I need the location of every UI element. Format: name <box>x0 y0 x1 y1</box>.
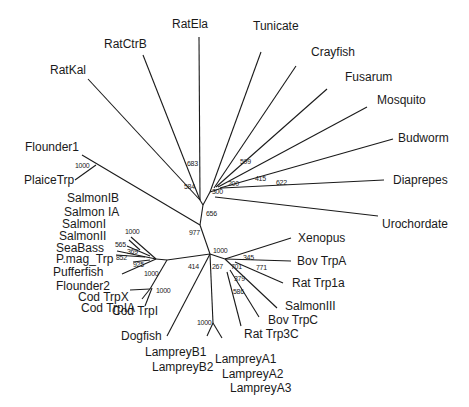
leaf-rattrp1a: Rat Trp1a <box>292 277 345 289</box>
bootstrap-1000-lamprey: 1000 <box>197 319 211 326</box>
leaf-flounder1: Flounder1 <box>25 141 79 153</box>
branch-trp-stem <box>210 254 225 259</box>
branch-diaprepes <box>222 180 384 188</box>
bootstrap-656: 656 <box>206 210 217 217</box>
branch-ratnode <box>200 200 203 205</box>
leaf-diaprepes: Diaprepes <box>393 174 448 186</box>
leaf-bovtrpa: Bov TrpA <box>297 255 346 267</box>
bootstrap-701: 701 <box>231 263 242 270</box>
branch-xenopus <box>225 238 291 259</box>
leaf-budworm: Budworm <box>398 132 449 144</box>
bootstrap-200: 200 <box>228 180 239 187</box>
leaf-urochordate: Urochordate <box>382 218 448 230</box>
leaf-fusarum: Fusarum <box>345 71 392 83</box>
leaf-pufferfish: Pufferfish <box>53 266 103 278</box>
bootstrap-771: 771 <box>256 264 267 271</box>
leaf-codtrpi: Cod TrpI <box>112 305 158 317</box>
branch-invert-stem <box>203 192 210 205</box>
branch-spine <box>200 205 203 225</box>
leaf-ratkal: RatKal <box>50 64 86 76</box>
bootstrap-369: 369 <box>127 248 138 255</box>
bootstrap-852: 852 <box>116 254 127 261</box>
branch-spine2 <box>200 225 210 254</box>
bootstrap-1000-hub: 1000 <box>213 247 227 254</box>
bootstrap-1000-puffer: 1000 <box>144 270 158 277</box>
branch-ratela <box>199 37 200 200</box>
bootstrap-565: 565 <box>115 241 126 248</box>
leaf-lampreya1: LampreyA1 <box>215 353 276 365</box>
bootstrap-1000-salmon: 1000 <box>125 228 139 235</box>
leaf-salmoniii: SalmonIII <box>285 300 336 312</box>
leaf-salmonib: SalmonIB <box>67 192 119 204</box>
branch-ratctrb <box>143 55 200 200</box>
bootstrap-1000-flounder: 1000 <box>75 162 89 169</box>
leaf-mosquito: Mosquito <box>377 94 426 106</box>
branch-lampreya <box>213 323 222 338</box>
leaf-crayfish: Crayfish <box>311 46 355 58</box>
leaf-ratctrb: RatCtrB <box>104 38 147 50</box>
branch-tunicate <box>210 52 261 192</box>
leaf-tunicate: Tunicate <box>253 20 299 32</box>
bootstrap-379: 379 <box>234 275 245 282</box>
branch-teleost-stem <box>167 254 210 260</box>
leaf-lampreya2: LampreyA2 <box>222 368 283 380</box>
bootstrap-267: 267 <box>212 263 223 270</box>
leaf-xenopus: Xenopus <box>298 232 345 244</box>
bootstrap-300: 300 <box>212 188 223 195</box>
leaf-lampreyb2: LampreyB2 <box>152 361 213 373</box>
branch-bovtrpa <box>225 259 291 261</box>
bootstrap-599: 599 <box>240 158 251 165</box>
branch-teleost-stem2 <box>156 259 167 260</box>
branch-urochordate <box>215 197 378 216</box>
bootstrap-925: 925 <box>133 261 144 268</box>
bootstrap-1000-cod: 1000 <box>156 287 170 294</box>
branch-codtrpx <box>130 289 150 290</box>
bootstrap-414: 414 <box>188 263 199 270</box>
leaf-ratela: RatEla <box>172 18 208 30</box>
bootstrap-586: 586 <box>233 288 244 295</box>
leaf-bovtrpc: Bov TrpC <box>268 314 318 326</box>
leaf-plaicetrp: PlaiceTrp <box>24 174 74 186</box>
bootstrap-622: 622 <box>276 179 287 186</box>
leaf-lampreya3: LampreyA3 <box>230 382 291 394</box>
leaf-lampreyb1: LampreyB1 <box>145 346 206 358</box>
leaf-rattrp3c: Rat Trp3C <box>244 328 299 340</box>
bootstrap-683: 683 <box>187 160 198 167</box>
branch-ratkal <box>88 79 200 200</box>
bootstrap-977: 977 <box>189 229 200 236</box>
leaf-pmag: P.mag_Trp <box>56 253 113 265</box>
bootstrap-345: 345 <box>243 254 254 261</box>
bootstrap-415: 415 <box>255 175 266 182</box>
bootstrap-584: 584 <box>184 183 195 190</box>
leaf-dogfish: Dogfish <box>121 330 162 342</box>
